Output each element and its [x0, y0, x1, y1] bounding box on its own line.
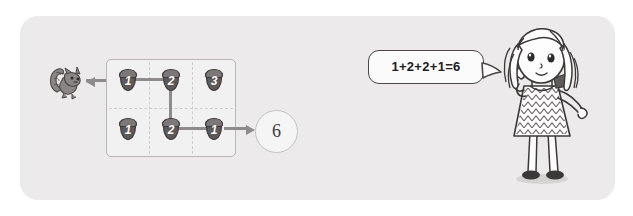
entry-arrow-head [86, 74, 96, 86]
illustration-canvas: 1 2 3 1 [0, 0, 633, 216]
acorn-token[interactable]: 2 [161, 118, 182, 141]
result-value: 6 [256, 111, 297, 151]
acorn-grid: 1 2 3 1 [106, 59, 236, 157]
equation-text: 1+2+2+1=6 [369, 51, 483, 82]
acorn-token[interactable]: 1 [118, 69, 139, 92]
exit-arrow-head [245, 122, 255, 134]
acorn-token[interactable]: 1 [204, 118, 225, 141]
result-circle: 6 [255, 110, 298, 153]
acorn-token[interactable]: 3 [204, 69, 225, 92]
speech-bubble: 1+2+2+1=6 [368, 50, 484, 84]
acorn-token[interactable]: 1 [118, 118, 139, 141]
acorn-token[interactable]: 2 [161, 69, 182, 92]
girl-thinking-icon [484, 24, 599, 189]
squirrel-icon [46, 62, 86, 102]
